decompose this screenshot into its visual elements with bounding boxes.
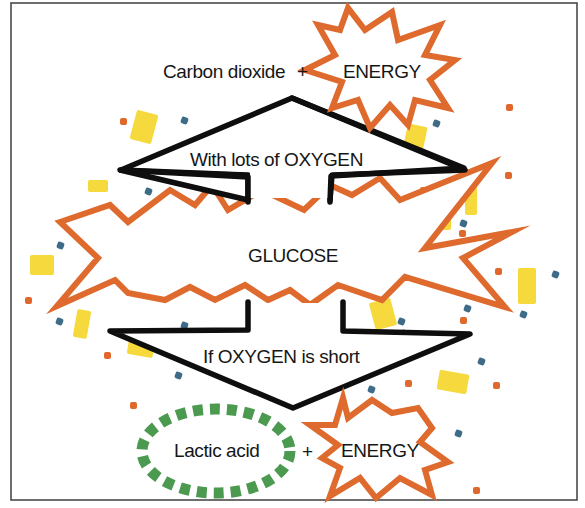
- confetti-piece: [518, 268, 536, 304]
- confetti-piece: [493, 382, 500, 389]
- confetti-piece: [130, 402, 137, 409]
- confetti-piece: [405, 380, 412, 387]
- confetti-piece: [120, 118, 127, 125]
- anaerobic-condition-label: If OXYGEN is short: [203, 346, 361, 367]
- anaerobic-plus-label: +: [302, 441, 313, 462]
- confetti-piece: [30, 255, 54, 275]
- aerobic-energy-label: ENERGY: [343, 61, 422, 82]
- aerobic-condition-label: With lots of OXYGEN: [190, 149, 363, 170]
- confetti-piece: [25, 297, 32, 304]
- confetti-piece: [505, 172, 512, 179]
- glucose-label: GLUCOSE: [248, 245, 338, 266]
- confetti-piece: [506, 104, 513, 111]
- confetti-piece: [88, 180, 108, 192]
- respiration-diagram: Carbon dioxide + ENERGY With lots of OXY…: [0, 0, 585, 508]
- anaerobic-energy-label: ENERGY: [341, 440, 420, 461]
- lactic-acid-label: Lactic acid: [174, 440, 259, 461]
- aerobic-plus-label: +: [297, 61, 308, 82]
- confetti-piece: [495, 268, 502, 275]
- confetti-piece: [473, 487, 480, 494]
- confetti-piece: [460, 317, 467, 324]
- aerobic-product-label: Carbon dioxide: [163, 61, 285, 82]
- confetti-piece: [459, 230, 466, 237]
- confetti-piece: [104, 352, 111, 359]
